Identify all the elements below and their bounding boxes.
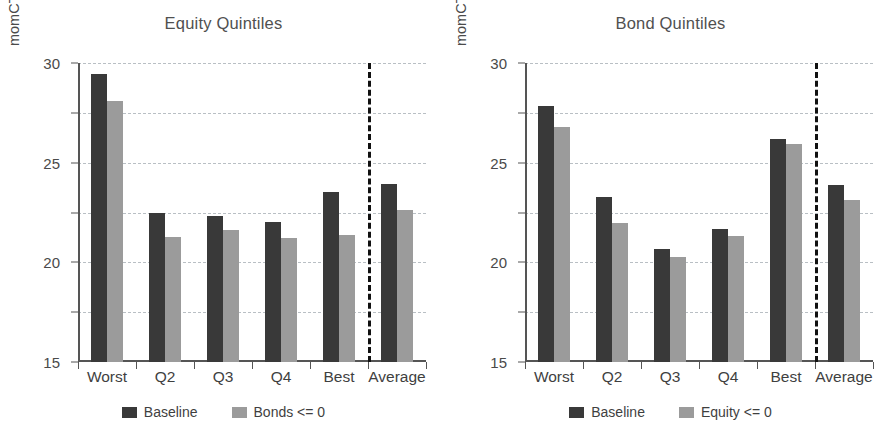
- chart-title-left: Equity Quintiles: [0, 14, 447, 33]
- panel-bond-quintiles: Bond Quintiles momCTA Annualized returns…: [447, 0, 894, 439]
- bar: [712, 229, 728, 362]
- bar: [149, 213, 165, 363]
- plot-area-right: 051015202530: [525, 63, 873, 362]
- bar: [828, 185, 844, 362]
- x-axis-tick-label: Best: [323, 368, 354, 386]
- y-axis-line: [78, 63, 80, 362]
- legend-item: Bonds <= 0: [232, 404, 326, 420]
- y-tick-mark: 5: [71, 312, 78, 313]
- y-tick-label: 20: [43, 254, 60, 271]
- y-tick-label: 25: [43, 155, 60, 172]
- legend-swatch: [122, 407, 137, 418]
- bar: [323, 192, 339, 362]
- y-axis-label-right: momCTA Annualized returns (%): [453, 0, 471, 91]
- plot-canvas-left: 051015202530: [78, 63, 426, 362]
- legend-label: Bonds <= 0: [254, 404, 326, 420]
- y-tick-label: 30: [43, 55, 60, 72]
- y-tick-mark: 25: [518, 112, 525, 113]
- x-axis-tick-label: Worst: [87, 368, 127, 386]
- y-tick-label: 15: [43, 354, 60, 371]
- bar: [107, 101, 123, 362]
- x-axis-tick-label: Best: [770, 368, 801, 386]
- x-axis-tick-label: Q4: [718, 368, 739, 386]
- panel-equity-quintiles: Equity Quintiles momCTA Annualized retur…: [0, 0, 447, 439]
- x-axis-tick-label: Average: [815, 368, 872, 386]
- legend-label: Baseline: [144, 404, 198, 420]
- legend-item: Baseline: [569, 404, 645, 420]
- plot-canvas-right: 051015202530: [525, 63, 873, 362]
- gridline: [525, 262, 873, 263]
- legend-left: BaselineBonds <= 0: [0, 404, 447, 420]
- gridline: [78, 113, 426, 114]
- bar: [381, 184, 397, 362]
- average-separator: [368, 63, 371, 362]
- y-tick-mark: 30: [518, 63, 525, 64]
- bar: [397, 210, 413, 362]
- x-axis-tick-label: Q3: [213, 368, 234, 386]
- y-tick-mark: 0: [71, 362, 78, 363]
- gridline: [525, 312, 873, 313]
- bar: [538, 106, 554, 362]
- y-tick-mark: 20: [71, 162, 78, 163]
- gridline: [525, 113, 873, 114]
- bar: [223, 230, 239, 362]
- y-tick-label: 25: [490, 155, 507, 172]
- gridline: [78, 262, 426, 263]
- gridline: [525, 213, 873, 214]
- bar: [728, 236, 744, 362]
- x-axis-tick-label: Q2: [155, 368, 176, 386]
- legend-label: Baseline: [591, 404, 645, 420]
- x-axis-labels-left: WorstQ2Q3Q4BestAverage: [78, 368, 426, 390]
- gridline: [525, 63, 873, 64]
- gridline: [78, 213, 426, 214]
- legend-item: Baseline: [122, 404, 198, 420]
- x-axis-tick-label: Q4: [271, 368, 292, 386]
- gridline: [78, 63, 426, 64]
- bar: [339, 235, 355, 362]
- y-tick-mark: 15: [518, 212, 525, 213]
- legend-swatch: [232, 407, 247, 418]
- y-tick-label: 30: [490, 55, 507, 72]
- bar: [265, 222, 281, 362]
- legend-right: BaselineEquity <= 0: [447, 404, 894, 420]
- bar: [91, 74, 107, 362]
- bar: [596, 197, 612, 362]
- y-tick-mark: 10: [518, 262, 525, 263]
- y-tick-label: 20: [490, 254, 507, 271]
- y-axis-label-left: momCTA Annualized returns (%): [6, 0, 24, 91]
- bar: [554, 127, 570, 362]
- legend-label: Equity <= 0: [701, 404, 772, 420]
- x-axis-labels-right: WorstQ2Q3Q4BestAverage: [525, 368, 873, 390]
- bar: [165, 237, 181, 362]
- plot-area-left: 051015202530: [78, 63, 426, 362]
- legend-swatch: [679, 407, 694, 418]
- y-tick-mark: 15: [71, 212, 78, 213]
- figure-two-panel-bar-charts: Equity Quintiles momCTA Annualized retur…: [0, 0, 894, 439]
- bar: [844, 200, 860, 362]
- bar: [612, 223, 628, 362]
- x-axis-tick-label: Q3: [660, 368, 681, 386]
- y-tick-mark: 30: [71, 63, 78, 64]
- bar: [654, 249, 670, 362]
- x-axis-tick-label: Worst: [534, 368, 574, 386]
- x-axis-tick-label: Q2: [602, 368, 623, 386]
- bar: [207, 216, 223, 363]
- x-tick-mark: [426, 362, 427, 369]
- gridline: [78, 163, 426, 164]
- chart-title-right: Bond Quintiles: [447, 14, 894, 33]
- x-axis-tick-label: Average: [368, 368, 425, 386]
- y-tick-mark: 20: [518, 162, 525, 163]
- legend-item: Equity <= 0: [679, 404, 772, 420]
- bar: [670, 257, 686, 362]
- y-tick-mark: 5: [518, 312, 525, 313]
- gridline: [525, 163, 873, 164]
- x-tick-mark: [873, 362, 874, 369]
- bar: [281, 238, 297, 362]
- bar: [770, 139, 786, 362]
- y-tick-mark: 25: [71, 112, 78, 113]
- legend-swatch: [569, 407, 584, 418]
- y-axis-line: [525, 63, 527, 362]
- y-tick-mark: 10: [71, 262, 78, 263]
- bar: [786, 144, 802, 362]
- y-tick-label: 15: [490, 354, 507, 371]
